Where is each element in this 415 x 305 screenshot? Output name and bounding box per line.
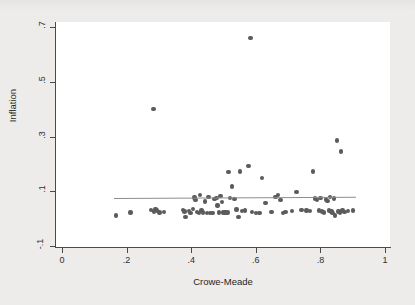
scatter-point <box>246 164 250 168</box>
y-tick-label-text: .3 <box>37 131 47 139</box>
scatter-point <box>269 210 273 214</box>
scatter-point <box>183 215 187 219</box>
x-tick-label: .8 <box>307 255 333 265</box>
x-tick-mark <box>256 248 257 253</box>
x-tick-mark <box>320 248 321 253</box>
y-tick-label-text: .7 <box>37 21 47 29</box>
y-tick-label: -.1 <box>14 239 46 249</box>
x-tick-mark <box>127 248 128 253</box>
x-axis-title: Crowe-Meade <box>55 276 391 287</box>
x-tick-label: .2 <box>114 255 140 265</box>
scatter-point <box>215 203 219 207</box>
y-tick-mark <box>50 82 55 83</box>
x-tick-label: .6 <box>243 255 269 265</box>
scan-noise-band <box>0 0 415 12</box>
scatter-point <box>234 207 238 211</box>
scatter-plot-figure: .7.5.3.1-.1 0.2.4.6.81 Inflation Crowe-M… <box>0 0 415 305</box>
scatter-point <box>225 210 229 214</box>
x-tick-mark <box>62 248 63 253</box>
scatter-point <box>188 211 192 215</box>
y-tick-label: .1 <box>14 184 46 194</box>
x-tick-mark <box>191 248 192 253</box>
y-tick-label: .3 <box>14 130 46 140</box>
y-tick-label: .5 <box>14 75 46 85</box>
y-tick-mark <box>50 137 55 138</box>
scatter-point <box>325 199 329 203</box>
y-tick-label-text: .1 <box>37 185 47 193</box>
scatter-point <box>203 199 207 203</box>
scatter-point <box>248 36 252 40</box>
y-tick-mark <box>50 191 55 192</box>
y-tick-mark <box>50 246 55 247</box>
scatter-point <box>151 107 155 111</box>
scatter-point <box>339 149 343 153</box>
y-axis-title: Inflation <box>7 71 18 141</box>
scatter-point <box>114 213 118 217</box>
scatter-point <box>263 201 267 205</box>
scatter-point <box>236 215 240 219</box>
y-tick-label-text: .5 <box>37 76 47 84</box>
scatter-point <box>299 208 303 212</box>
x-tick-label: 0 <box>49 255 75 265</box>
y-axis-line <box>55 22 56 248</box>
scatter-point <box>294 190 298 194</box>
scatter-point <box>351 208 355 212</box>
x-tick-mark <box>385 248 386 253</box>
scatter-point <box>182 209 186 213</box>
scatter-point <box>322 210 326 214</box>
scatter-point <box>283 210 287 214</box>
y-tick-label-text: -.1 <box>36 239 46 250</box>
scatter-point <box>243 208 247 212</box>
y-tick-label: .7 <box>14 20 46 30</box>
y-tick-mark <box>50 27 55 28</box>
scatter-point <box>128 210 132 214</box>
x-axis-line <box>55 247 391 248</box>
x-tick-label: 1 <box>372 255 398 265</box>
scatter-point <box>210 211 214 215</box>
scatter-point <box>278 198 282 202</box>
scatter-point <box>333 213 337 217</box>
x-tick-label: .4 <box>178 255 204 265</box>
